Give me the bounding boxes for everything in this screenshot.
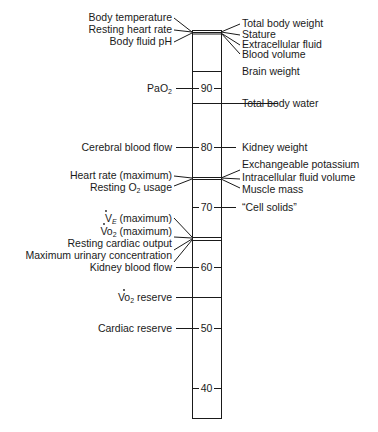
tick-60: 60: [201, 261, 213, 273]
organ-scaling-diagram: 90 80 70 60 50 40 Body temperature Resti…: [0, 0, 378, 432]
label-vo2-reserve: Vo2 reserve: [118, 291, 172, 304]
label-cardiac-reserve: Cardiac reserve: [98, 322, 172, 334]
label-ve-max: VE (maximum): [105, 212, 172, 225]
dot-accent-icon: [103, 223, 105, 225]
dot-accent-icon: [105, 210, 107, 212]
label-heart-rate-max: Heart rate (maximum): [70, 169, 172, 181]
label-cell-solids: “Cell solids”: [242, 201, 297, 213]
label-resting-heart-rate: Resting heart rate: [89, 23, 173, 35]
label-kidney-blood-flow: Kidney blood flow: [90, 261, 173, 273]
label-total-body-water: Total body water: [242, 97, 319, 109]
tick-40: 40: [201, 382, 213, 394]
label-muscle-mass: Muscle mass: [242, 183, 303, 195]
tick-80: 80: [201, 141, 213, 153]
label-intracellular-fluid-volume: Intracellular fluid volume: [242, 171, 355, 183]
label-brain-weight: Brain weight: [242, 65, 300, 77]
tick-50: 50: [201, 322, 213, 334]
label-blood-volume: Blood volume: [242, 48, 306, 60]
label-body-temperature: Body temperature: [89, 11, 173, 23]
tick-90: 90: [201, 82, 213, 94]
label-resting-cardiac-output: Resting cardiac output: [68, 237, 173, 249]
label-cerebral-blood-flow: Cerebral blood flow: [82, 141, 173, 153]
label-max-urinary-concentration: Maximum urinary concentration: [26, 249, 173, 261]
label-exchangeable-potassium: Exchangeable potassium: [242, 158, 360, 170]
label-body-fluid-ph: Body fluid pH: [110, 35, 172, 47]
label-resting-o2-usage: Resting O2 usage: [90, 181, 172, 194]
dot-accent-icon: [123, 289, 125, 291]
tick-70: 70: [201, 201, 213, 213]
label-kidney-weight: Kidney weight: [242, 141, 307, 153]
label-pao2: PaO2: [147, 82, 172, 95]
